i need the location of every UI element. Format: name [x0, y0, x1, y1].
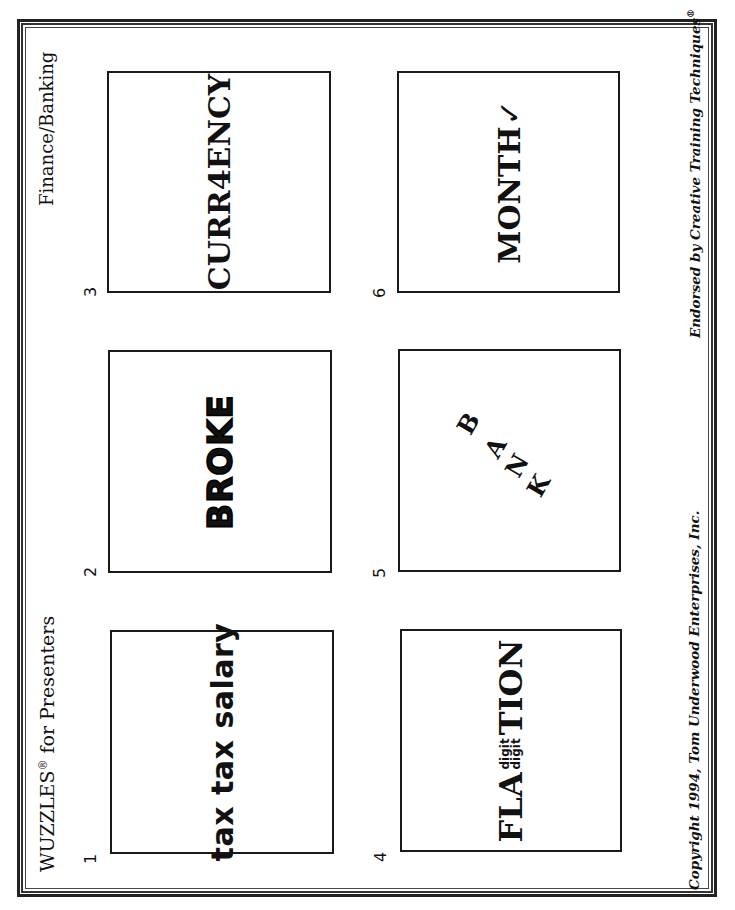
puzzle-text-2: BROKE [200, 394, 240, 530]
title-text: WUZZLES [36, 771, 58, 872]
puzzle-4-stack-bottom: digit [511, 738, 522, 769]
puzzle-4-suffix: TION [492, 639, 530, 735]
puzzle-number-1: 1 [81, 854, 100, 864]
puzzle-text-1: tax tax salary [205, 623, 240, 862]
registered-mark: ® [37, 760, 50, 771]
checkmark-icon: ✓ [491, 100, 526, 125]
registered-mark: ® [686, 9, 696, 18]
endorsement-label: Endorsed by Creative Training Techniques [687, 18, 703, 338]
puzzle-box-4: FLA digit digit TION [400, 629, 622, 852]
puzzle-number-6: 6 [370, 288, 389, 298]
puzzle-box-5: B A N K [398, 349, 621, 572]
page-title: WUZZLES® for Presenters [36, 616, 58, 872]
copyright-text: Copyright 1994, Tom Underwood Enterprise… [686, 511, 702, 890]
puzzle-6-word: MONTH [491, 126, 526, 263]
puzzle-5-letter-b: B [450, 407, 485, 439]
puzzle-box-3: CURR4ENCY [107, 71, 331, 293]
puzzle-4-stack: digit digit [500, 738, 522, 769]
puzzle-number-5: 5 [370, 568, 389, 578]
puzzle-box-1: tax tax salary [110, 630, 334, 854]
puzzle-box-2: BROKE [108, 350, 332, 573]
puzzle-box-6: MONTH ✓ [397, 71, 620, 293]
puzzle-text-4: FLA digit digit TION [492, 639, 530, 842]
page-topic: Finance/Banking [36, 52, 57, 206]
title-suffix: for Presenters [36, 616, 58, 760]
puzzle-4-prefix: FLA [492, 772, 530, 842]
puzzle-text-6: MONTH ✓ [491, 100, 526, 264]
puzzle-number-3: 3 [81, 287, 100, 297]
puzzle-number-2: 2 [81, 567, 100, 577]
endorsement-text: Endorsed by Creative Training Techniques… [686, 9, 703, 338]
puzzle-number-4: 4 [371, 852, 390, 862]
puzzle-text-5: B A N K [460, 411, 560, 511]
puzzle-text-3: CURR4ENCY [202, 74, 237, 290]
